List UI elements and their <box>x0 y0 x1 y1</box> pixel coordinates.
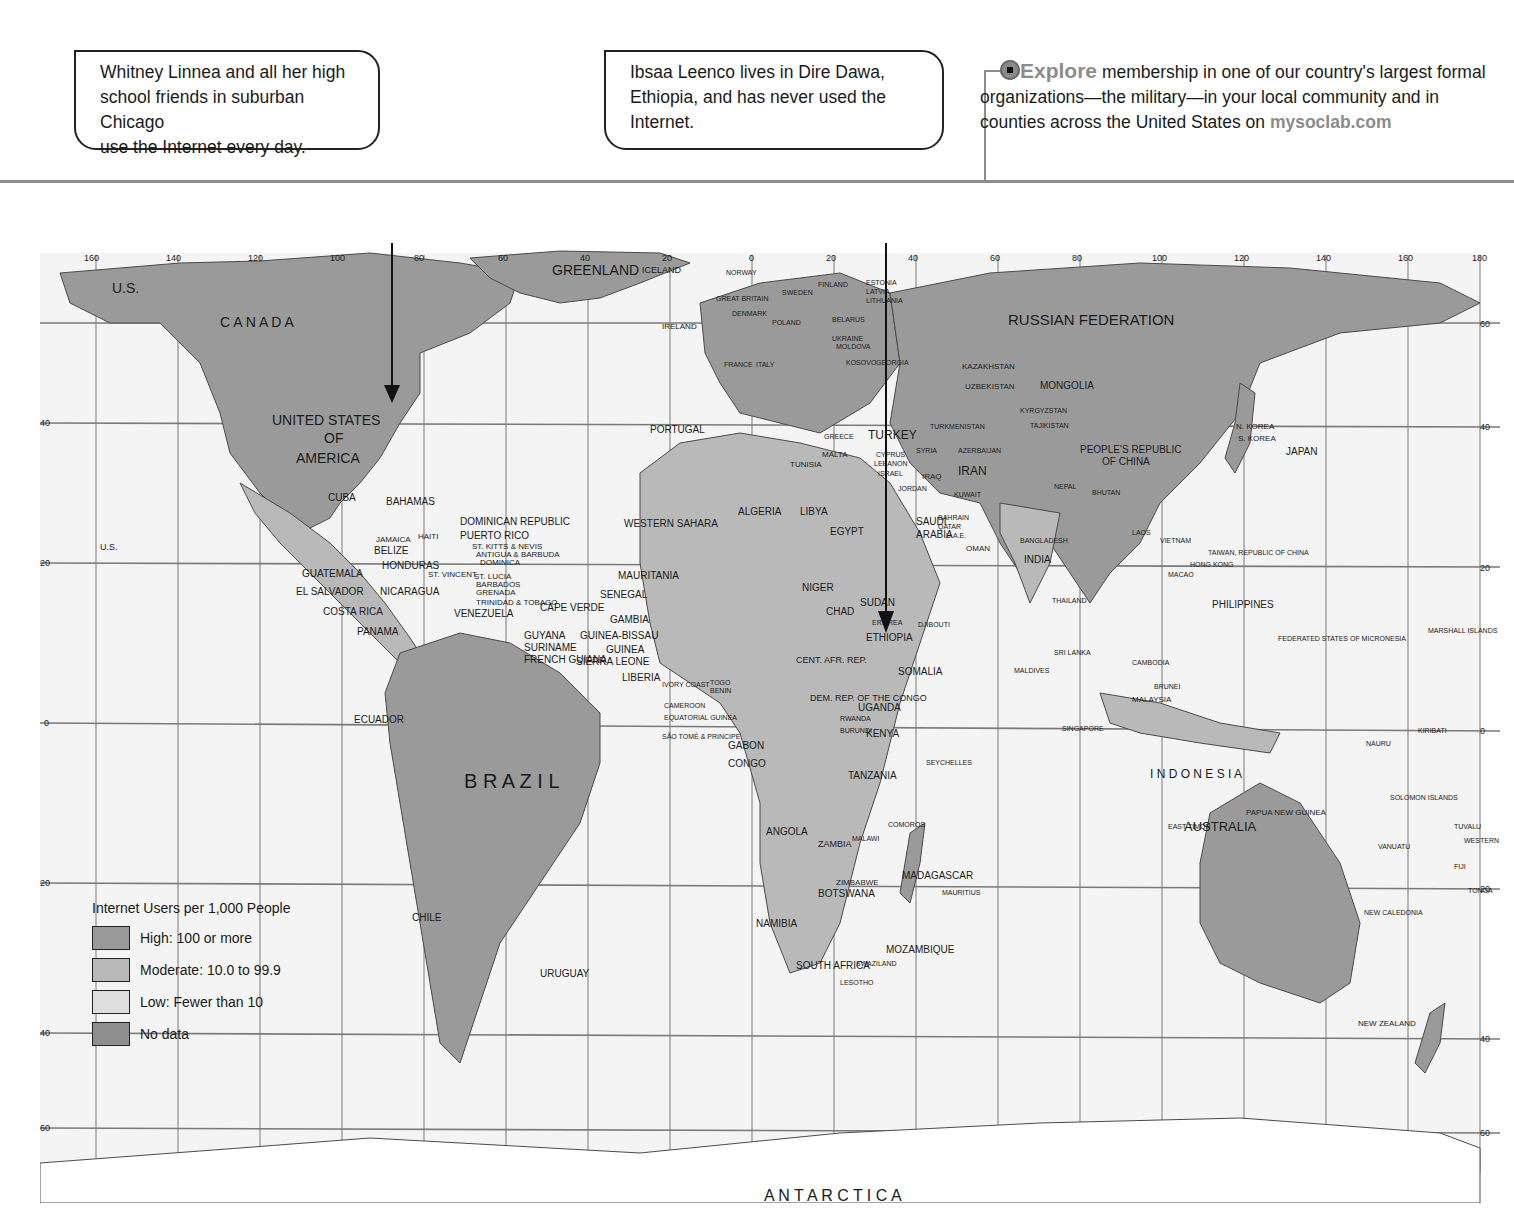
svg-text:NIGER: NIGER <box>802 582 834 593</box>
svg-text:SÃO TOMÉ & PRINCIPE: SÃO TOMÉ & PRINCIPE <box>662 732 741 740</box>
svg-text:20: 20 <box>40 558 50 568</box>
svg-text:KAZAKHSTAN: KAZAKHSTAN <box>962 362 1015 371</box>
svg-text:MALAYSIA: MALAYSIA <box>1132 695 1172 704</box>
svg-text:OF CHINA: OF CHINA <box>1102 456 1150 467</box>
map-legend: Internet Users per 1,000 People High: 10… <box>92 900 342 1050</box>
svg-text:BENIN: BENIN <box>710 687 731 694</box>
callout-whitney: Whitney Linnea and all her high school f… <box>74 50 380 150</box>
svg-text:IRAQ: IRAQ <box>922 472 942 481</box>
svg-text:GREECE: GREECE <box>824 433 854 440</box>
svg-text:BHUTAN: BHUTAN <box>1092 489 1120 496</box>
svg-text:ZIMBABWE: ZIMBABWE <box>836 878 879 887</box>
svg-text:EQUATORIAL GUINEA: EQUATORIAL GUINEA <box>664 714 737 722</box>
svg-text:BELARUS: BELARUS <box>832 316 865 323</box>
explore-block: Explore membership in one of our country… <box>980 58 1500 135</box>
svg-text:100: 100 <box>330 253 345 263</box>
svg-text:80: 80 <box>414 253 424 263</box>
svg-text:SENEGAL: SENEGAL <box>600 589 648 600</box>
svg-text:POLAND: POLAND <box>772 319 801 326</box>
svg-text:KUWAIT: KUWAIT <box>954 491 982 498</box>
svg-text:NAURU: NAURU <box>1366 740 1391 747</box>
svg-text:IRAN: IRAN <box>958 464 987 478</box>
svg-text:NORWAY: NORWAY <box>726 269 757 276</box>
svg-text:NICARAGUA: NICARAGUA <box>380 586 440 597</box>
svg-text:HONG KONG: HONG KONG <box>1190 561 1234 568</box>
svg-text:ARABIA: ARABIA <box>916 529 953 540</box>
svg-text:VANUATU: VANUATU <box>1378 843 1410 850</box>
svg-text:0: 0 <box>749 253 754 263</box>
legend-item-high: High: 100 or more <box>92 922 342 954</box>
svg-text:BOTSWANA: BOTSWANA <box>818 888 875 899</box>
svg-text:NEW CALEDONIA: NEW CALEDONIA <box>1364 909 1423 916</box>
svg-text:U.S.: U.S. <box>112 280 139 296</box>
svg-text:IRELAND: IRELAND <box>662 322 697 331</box>
svg-text:EGYPT: EGYPT <box>830 526 864 537</box>
svg-text:ICELAND: ICELAND <box>642 265 682 275</box>
callout-line: school friends in suburban Chicago <box>100 85 358 135</box>
legend-swatch-low <box>92 990 130 1014</box>
svg-text:TURKMENISTAN: TURKMENISTAN <box>930 423 985 430</box>
svg-text:GABON: GABON <box>728 740 764 751</box>
svg-text:40: 40 <box>40 418 50 428</box>
svg-text:GUINEA-BISSAU: GUINEA-BISSAU <box>580 630 658 641</box>
svg-text:CYPRUS: CYPRUS <box>876 451 906 458</box>
legend-label: No data <box>140 1026 189 1042</box>
svg-text:A N T A R C T I C A: A N T A R C T I C A <box>764 1187 902 1203</box>
svg-text:ITALY: ITALY <box>756 361 775 368</box>
svg-text:140: 140 <box>1316 253 1331 263</box>
svg-text:SYRIA: SYRIA <box>916 447 937 454</box>
legend-label: High: 100 or more <box>140 930 252 946</box>
svg-text:C A N A D A: C A N A D A <box>220 314 295 330</box>
explore-keyword: Explore <box>1020 59 1097 82</box>
svg-text:NAMIBIA: NAMIBIA <box>756 918 797 929</box>
svg-text:EAST TIMOR: EAST TIMOR <box>1168 823 1211 830</box>
svg-text:FIJI: FIJI <box>1454 863 1466 870</box>
svg-text:GEORGIA: GEORGIA <box>876 359 909 366</box>
svg-text:ETHIOPIA: ETHIOPIA <box>866 632 913 643</box>
legend-swatch-no-data <box>92 1022 130 1046</box>
explore-link[interactable]: mysoclab.com <box>1270 112 1392 132</box>
svg-text:DOMINICAN REPUBLIC: DOMINICAN REPUBLIC <box>460 516 570 527</box>
svg-text:40: 40 <box>1480 422 1490 432</box>
legend-label: Low: Fewer than 10 <box>140 994 263 1010</box>
svg-text:ECUADOR: ECUADOR <box>354 714 404 725</box>
legend-title: Internet Users per 1,000 People <box>92 900 342 916</box>
svg-text:HAITI: HAITI <box>418 532 438 541</box>
svg-text:TAJIKISTAN: TAJIKISTAN <box>1030 422 1069 429</box>
svg-text:AZERBAIJAN: AZERBAIJAN <box>958 447 1001 454</box>
svg-text:BURUNDI: BURUNDI <box>840 727 872 734</box>
svg-text:KOSOVO: KOSOVO <box>846 359 877 366</box>
svg-text:COSTA RICA: COSTA RICA <box>323 606 383 617</box>
svg-text:80: 80 <box>1072 253 1082 263</box>
svg-text:FEDERATED STATES OF MICRONESIA: FEDERATED STATES OF MICRONESIA <box>1278 635 1406 642</box>
svg-text:DENMARK: DENMARK <box>732 310 767 317</box>
svg-text:DJIBOUTI: DJIBOUTI <box>918 621 950 628</box>
svg-text:TONGA: TONGA <box>1468 887 1493 894</box>
svg-text:CENT. AFR. REP.: CENT. AFR. REP. <box>796 655 867 665</box>
callout-line: Ibsaa Leenco lives in Dire Dawa, <box>630 60 922 85</box>
svg-text:SEYCHELLES: SEYCHELLES <box>926 759 972 766</box>
svg-text:BANGLADESH: BANGLADESH <box>1020 537 1068 544</box>
svg-text:40: 40 <box>40 1028 50 1038</box>
svg-text:TAIWAN, REPUBLIC OF CHINA: TAIWAN, REPUBLIC OF CHINA <box>1208 549 1309 556</box>
svg-text:OF: OF <box>324 430 343 446</box>
svg-text:40: 40 <box>1480 1034 1490 1044</box>
svg-text:CHAD: CHAD <box>826 606 854 617</box>
svg-text:ZAMBIA: ZAMBIA <box>818 839 852 849</box>
callout-line: Ethiopia, and has never used the <box>630 85 922 110</box>
svg-text:THAILAND: THAILAND <box>1052 597 1087 604</box>
svg-text:DOMINICA: DOMINICA <box>480 558 521 567</box>
svg-text:COMOROS: COMOROS <box>888 821 925 828</box>
svg-text:JORDAN: JORDAN <box>898 485 927 492</box>
svg-text:BELIZE: BELIZE <box>374 545 409 556</box>
svg-text:180: 180 <box>1472 253 1487 263</box>
svg-text:LAOS: LAOS <box>1132 529 1151 536</box>
svg-text:JAMAICA: JAMAICA <box>376 535 411 544</box>
svg-text:60: 60 <box>1480 319 1490 329</box>
svg-text:MARSHALL ISLANDS: MARSHALL ISLANDS <box>1428 627 1498 634</box>
svg-text:GREAT BRITAIN: GREAT BRITAIN <box>716 295 769 302</box>
svg-text:MALDIVES: MALDIVES <box>1014 667 1050 674</box>
svg-text:SOUTH AFRICA: SOUTH AFRICA <box>796 960 870 971</box>
svg-text:160: 160 <box>84 253 99 263</box>
svg-text:PAPUA NEW GUINEA: PAPUA NEW GUINEA <box>1246 808 1327 817</box>
